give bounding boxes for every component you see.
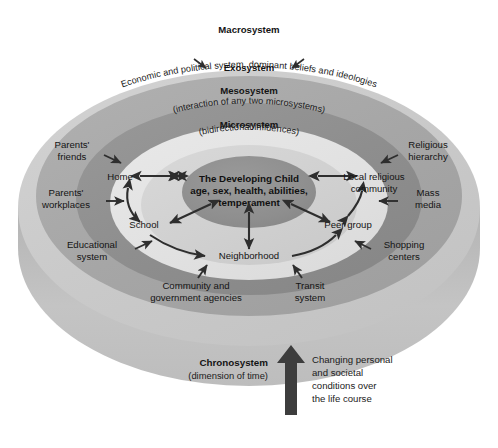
- macrosystem-title: Macrosystem: [218, 24, 279, 35]
- mesosystem-title: Mesosystem: [220, 85, 278, 96]
- node-religious-hierarchy-line-1: Religious: [408, 139, 448, 150]
- node-peer-group[interactable]: Peer group: [324, 219, 371, 230]
- chronosystem-note-line-2: and societal: [312, 367, 363, 378]
- center-line-3: temperament: [218, 197, 280, 208]
- node-local-religious-community-line-2: community: [351, 183, 398, 194]
- node-parents-friends-line-2: friends: [58, 151, 87, 162]
- node-transit-system[interactable]: Transit system: [295, 280, 325, 303]
- node-transit-system-line-1: Transit: [296, 280, 325, 291]
- node-shopping-centers-line-2: centers: [388, 251, 420, 262]
- node-community-agencies-line-2: government agencies: [150, 292, 242, 303]
- node-parents-workplaces-line-1: Parents': [49, 187, 84, 198]
- node-religious-hierarchy[interactable]: Religious hierarchy: [408, 139, 448, 162]
- node-shopping-centers-line-1: Shopping: [384, 239, 425, 250]
- chronosystem-note-line-4: the life course: [312, 393, 372, 404]
- node-community-agencies-line-1: Community and: [162, 280, 229, 291]
- node-mass-media-line-2: media: [415, 199, 442, 210]
- node-mass-media-line-1: Mass: [417, 187, 440, 198]
- node-shopping-centers[interactable]: Shopping centers: [384, 239, 425, 262]
- center-line-2: age, sex, health, abilities,: [190, 185, 308, 196]
- node-community-and-government-agencies[interactable]: Community and government agencies: [150, 280, 242, 303]
- node-school[interactable]: School: [129, 219, 158, 230]
- node-parents-workplaces[interactable]: Parents' workplaces: [41, 187, 90, 210]
- ecological-systems-diagram: Macrosystem Economic and political syste…: [0, 0, 498, 448]
- node-home[interactable]: Home: [107, 171, 133, 182]
- node-parents-workplaces-line-2: workplaces: [41, 199, 90, 210]
- center-line-1: The Developing Child: [199, 173, 299, 184]
- chronosystem-subtitle: (dimension of time): [188, 370, 268, 381]
- node-transit-system-line-2: system: [295, 292, 325, 303]
- node-parents-friends-line-1: Parents': [55, 139, 90, 150]
- chronosystem-title: Chronosystem: [199, 357, 268, 368]
- diagram-stage: Macrosystem Economic and political syste…: [0, 0, 498, 448]
- node-educational-system-line-2: system: [77, 251, 107, 262]
- node-parents-friends[interactable]: Parents' friends: [55, 139, 90, 162]
- exosystem-title: Exosystem: [224, 62, 275, 73]
- chronosystem-note-line-1: Changing personal: [312, 354, 393, 365]
- node-educational-system-line-1: Educational: [67, 239, 117, 250]
- node-religious-hierarchy-line-2: hierarchy: [408, 151, 448, 162]
- node-neighborhood[interactable]: Neighborhood: [219, 250, 279, 261]
- node-local-religious-community-line-1: Local religious: [343, 171, 405, 182]
- chronosystem-note-line-3: conditions over: [312, 380, 377, 391]
- node-mass-media[interactable]: Mass media: [415, 187, 442, 210]
- node-local-religious-community[interactable]: Local religious community: [343, 171, 405, 194]
